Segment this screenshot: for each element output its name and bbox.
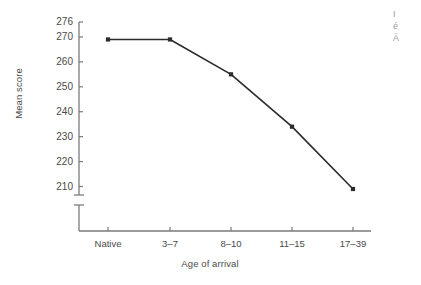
edge-fragment-line-2: é bbox=[393, 20, 419, 32]
page-edge-text-fragments: I é Ä bbox=[393, 8, 419, 44]
chart-figure: Mean score Age of arrival 21022023024025… bbox=[0, 0, 421, 285]
chart-series-line bbox=[108, 39, 353, 189]
chart-series-markers bbox=[106, 37, 355, 191]
edge-fragment-line-1: I bbox=[393, 8, 419, 20]
chart-axes bbox=[74, 22, 371, 231]
chart-plot-area bbox=[0, 0, 421, 285]
edge-fragment-line-3: Ä bbox=[393, 32, 419, 44]
